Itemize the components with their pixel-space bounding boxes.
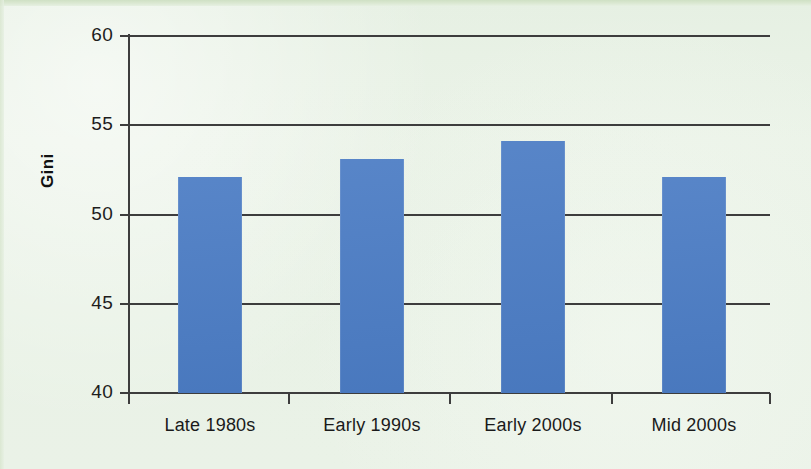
y-tick-label-40: 40 [91, 381, 113, 403]
x-tick-0 [128, 393, 130, 404]
x-tick-2 [449, 393, 451, 404]
x-tick-1 [288, 393, 290, 404]
bar-late-1980s[interactable] [178, 177, 242, 393]
gridline-60 [129, 35, 770, 37]
y-tick-60 [120, 35, 129, 37]
y-tick-50 [120, 214, 129, 216]
x-tick-3 [611, 393, 613, 404]
x-axis-label-0: Late 1980s [120, 415, 300, 436]
y-tick-label-50: 50 [91, 203, 113, 225]
x-tick-4 [769, 393, 771, 404]
chart-page: Gini 4045505560 Late 1980sEarly 1990sEar… [0, 0, 811, 469]
gridline-55 [129, 124, 770, 126]
x-axis-label-1: Early 1990s [282, 415, 462, 436]
y-tick-label-55: 55 [91, 113, 113, 135]
y-tick-label-60: 60 [91, 24, 113, 46]
y-tick-55 [120, 124, 129, 126]
x-axis-label-2: Early 2000s [443, 415, 623, 436]
y-tick-45 [120, 303, 129, 305]
y-tick-labels-group: 4045505560 [0, 0, 113, 469]
bar-mid-2000s[interactable] [662, 177, 726, 393]
bar-early-2000s[interactable] [501, 141, 565, 393]
bar-early-1990s[interactable] [340, 159, 404, 393]
y-tick-label-45: 45 [91, 292, 113, 314]
gini-bar-chart: Gini 4045505560 Late 1980sEarly 1990sEar… [0, 0, 811, 469]
x-axis-label-3: Mid 2000s [604, 415, 784, 436]
